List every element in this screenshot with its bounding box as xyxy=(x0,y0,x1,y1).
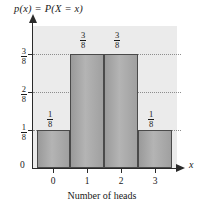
bar-label-3-heads: 1 8 xyxy=(139,110,163,129)
x-axis-label-2: 2 xyxy=(111,176,131,186)
bar-label-0-denominator: 8 xyxy=(47,119,53,129)
x-tick-1 xyxy=(87,168,88,173)
y-axis-label-1-8: 1 8 xyxy=(1,123,27,142)
bar-label-1-head: 3 8 xyxy=(71,31,95,50)
bar-1-head xyxy=(70,54,104,168)
x-axis-symbol: x xyxy=(189,159,193,170)
probability-distribution-chart: p(x) = P(X = x) 3 8 2 8 1 8 0 xyxy=(0,0,204,206)
bar-2-heads xyxy=(104,54,138,168)
bar-label-0-numerator: 1 xyxy=(47,110,53,119)
x-axis-caption: Number of heads xyxy=(0,190,204,201)
y-axis-label-3-8-numerator: 3 xyxy=(21,47,27,56)
y-axis-arrow-icon xyxy=(29,14,37,23)
bar-3-heads xyxy=(138,130,172,168)
x-tick-2 xyxy=(121,168,122,173)
x-tick-3 xyxy=(155,168,156,173)
bar-label-1-denominator: 8 xyxy=(80,40,86,50)
y-axis-label-3-8: 3 8 xyxy=(1,47,27,66)
y-axis-label-2-8-numerator: 2 xyxy=(21,85,27,94)
x-axis-label-3: 3 xyxy=(145,176,165,186)
x-axis-label-0: 0 xyxy=(43,176,63,186)
bar-label-3-numerator: 1 xyxy=(148,110,154,119)
x-axis-arrow-icon xyxy=(176,164,185,172)
bar-label-2-denominator: 8 xyxy=(114,40,120,50)
y-axis-label-1-8-denominator: 8 xyxy=(21,132,27,142)
y-axis-label-2-8-denominator: 8 xyxy=(21,94,27,104)
bar-label-2-heads: 3 8 xyxy=(105,31,129,50)
x-tick-0 xyxy=(53,168,54,173)
x-axis-label-1: 1 xyxy=(77,176,97,186)
bar-label-1-numerator: 3 xyxy=(80,31,86,40)
y-axis-label-3-8-denominator: 8 xyxy=(21,56,27,66)
chart-title: p(x) = P(X = x) xyxy=(14,3,83,14)
y-axis-label-2-8: 2 8 xyxy=(1,85,27,104)
bar-label-3-denominator: 8 xyxy=(148,119,154,129)
bar-label-0-heads: 1 8 xyxy=(38,110,62,129)
y-axis-label-1-8-numerator: 1 xyxy=(21,123,27,132)
bar-0-heads xyxy=(37,130,70,168)
y-axis-label-zero: 0 xyxy=(20,160,25,170)
bar-label-2-numerator: 3 xyxy=(114,31,120,40)
